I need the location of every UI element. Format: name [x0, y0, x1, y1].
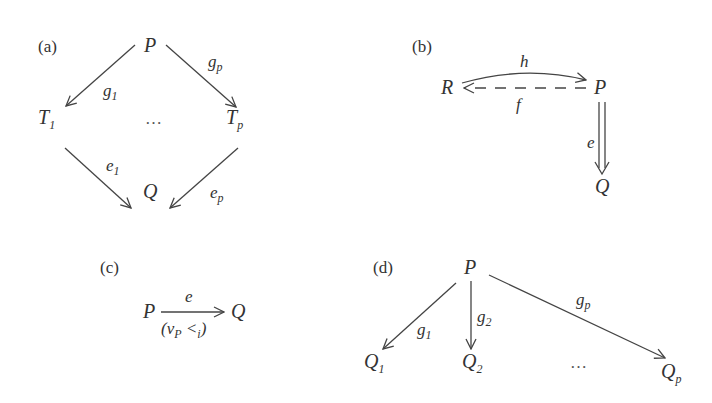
edge-g1-label: g1	[103, 81, 118, 103]
panel-a-label: (a)	[38, 37, 57, 56]
node-q2: Q2	[462, 350, 482, 376]
edge-ep-arrow	[170, 148, 238, 208]
panel-d-label: (d)	[373, 258, 393, 277]
ellipsis: …	[145, 109, 162, 128]
panel-d: (d) P Q1 Q2 … Qp g1 g2 gp	[364, 256, 681, 386]
node-q: Q	[595, 175, 610, 197]
edge-gp-label: gp	[208, 52, 223, 74]
edge-e-annotation: (νP <i)	[161, 319, 207, 341]
edge-gp-label: gp	[576, 290, 591, 312]
node-tp: Tp	[226, 106, 243, 132]
panel-a: (a) P T1 … Tp Q g1 gp e1 ep	[38, 34, 243, 208]
edge-h-label: h	[520, 52, 529, 71]
node-p: P	[142, 300, 155, 322]
edge-g1-arrow	[66, 45, 135, 106]
node-q: Q	[143, 180, 158, 202]
node-p: P	[143, 34, 156, 56]
node-q1: Q1	[364, 350, 384, 376]
panel-c: (c) P Q e (νP <i)	[100, 258, 246, 341]
node-t1: T1	[38, 106, 55, 132]
node-qp: Qp	[661, 360, 681, 386]
node-r: R	[440, 76, 453, 98]
panel-b-label: (b)	[412, 37, 432, 56]
edge-gp-arrow	[166, 45, 236, 107]
edge-gp-arrow	[489, 275, 665, 358]
edge-e-label: e	[185, 287, 193, 306]
edge-e1-label: e1	[106, 156, 120, 178]
node-p: P	[593, 76, 606, 98]
panel-b: (b) R P Q h f e	[412, 37, 610, 197]
edge-g1-label: g1	[417, 320, 432, 342]
edge-f-label: f	[516, 95, 523, 114]
node-q: Q	[231, 300, 246, 322]
edge-h-arrow	[462, 73, 586, 83]
node-p: P	[463, 256, 476, 278]
panel-c-label: (c)	[100, 258, 119, 277]
edge-e-double-arrow	[595, 102, 609, 174]
edge-e-label: e	[587, 133, 595, 152]
edge-e1-arrow	[65, 148, 131, 208]
ellipsis: …	[570, 353, 587, 372]
edge-g2-label: g2	[477, 307, 492, 329]
edge-ep-label: ep	[210, 183, 224, 205]
diagram-canvas: (a) P T1 … Tp Q g1 gp e1 ep (b) R P Q h …	[0, 0, 712, 403]
edge-g1-arrow	[383, 283, 456, 349]
